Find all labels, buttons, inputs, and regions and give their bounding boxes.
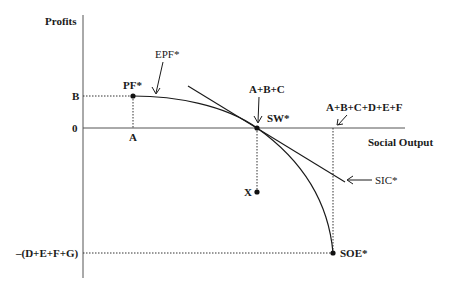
y-tick-zero: 0 (72, 123, 78, 134)
epf-label: EPF* (155, 49, 179, 60)
soe-point (330, 250, 335, 255)
sw-point (254, 125, 259, 130)
x-axis-label: Social Output (368, 137, 433, 148)
pf-point (130, 93, 135, 98)
y-axis-label: Profits (45, 16, 77, 27)
epf-curve (133, 96, 333, 253)
sic-label: SIC* (375, 175, 398, 186)
y-tick-b: B (72, 91, 79, 102)
sic-line (188, 86, 345, 182)
soe-label: SOE* (340, 248, 368, 259)
epf-arrow (152, 62, 163, 94)
sic-arrow (347, 176, 372, 184)
x-tick-a: A (129, 132, 137, 143)
x-label: X (244, 187, 252, 198)
pf-label: PF* (123, 80, 142, 91)
abcdef-label: A+B+C+D+E+F (326, 102, 403, 113)
abcdef-arrow (337, 115, 347, 125)
abc-label: A+B+C (249, 84, 285, 95)
y-tick-neg: –(D+E+F+G) (16, 248, 78, 259)
sw-label: SW* (267, 113, 290, 124)
x-point (254, 189, 259, 194)
abc-arrow (254, 97, 262, 123)
